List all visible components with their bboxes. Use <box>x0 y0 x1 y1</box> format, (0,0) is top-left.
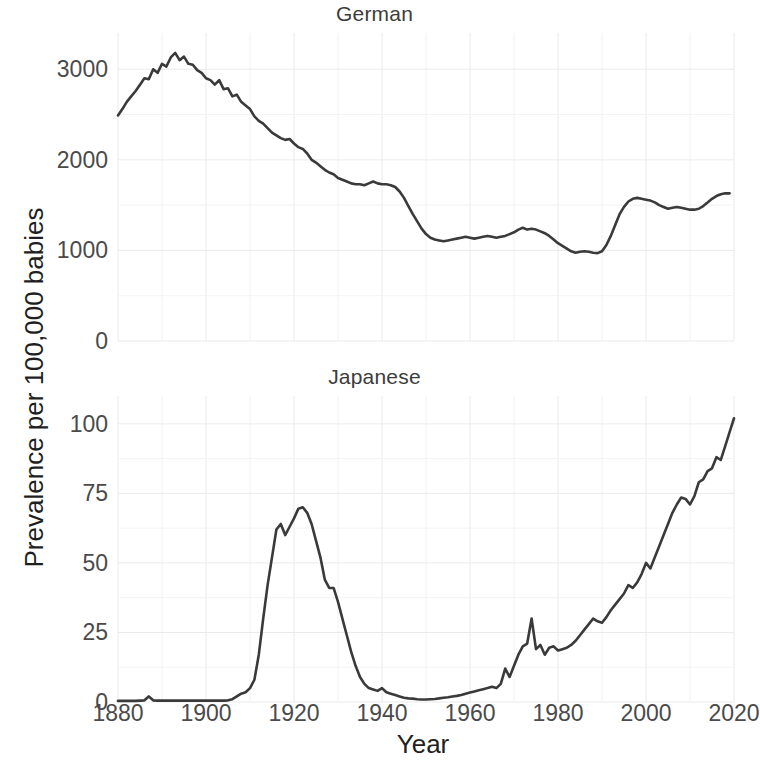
plot-area-japanese <box>0 0 749 766</box>
chart-figure: German Japanese Prevalence per 100,000 b… <box>0 0 749 766</box>
